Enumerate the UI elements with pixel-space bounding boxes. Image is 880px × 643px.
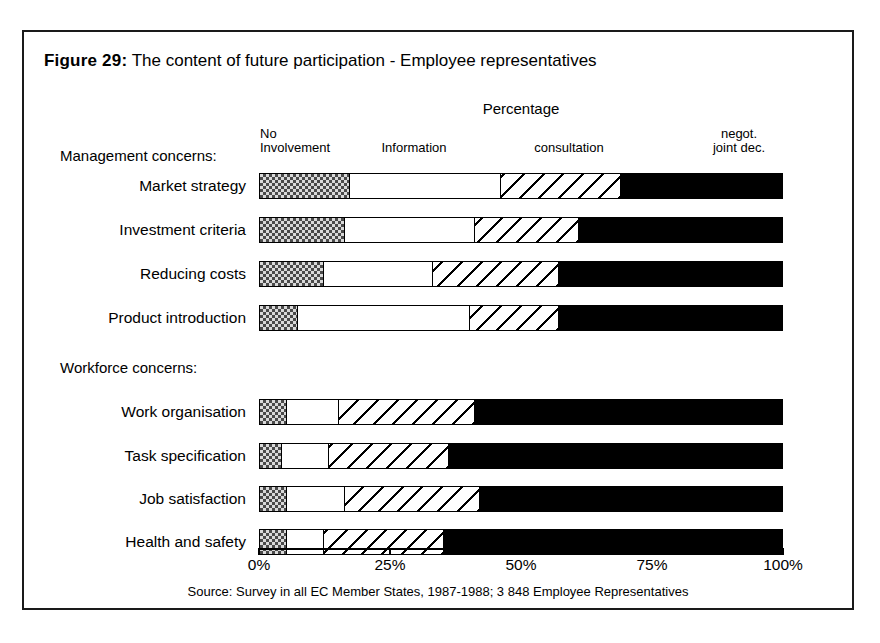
bar-row: Task specification [24, 443, 852, 469]
bar-row: Health and safety [24, 529, 852, 555]
bar-row-label: Job satisfaction [24, 488, 246, 510]
bar-segment-consultation [323, 530, 443, 554]
stacked-bar [259, 173, 783, 199]
figure-frame: Figure 29: The content of future partici… [22, 30, 854, 610]
bar-segment-consultation [344, 487, 480, 511]
bar-row-label: Market strategy [24, 175, 246, 197]
bar-row-label: Investment criteria [24, 219, 246, 241]
bar-segment-no-involvement [260, 444, 281, 468]
axis-title-percentage: Percentage [259, 100, 783, 117]
bar-row: Market strategy [24, 173, 852, 199]
x-axis-tick [258, 548, 260, 555]
x-axis-tick-label: 75% [617, 556, 687, 574]
bar-segment-information [286, 487, 343, 511]
bar-segment-negot-joint-dec [448, 444, 782, 468]
bar-segment-information [297, 306, 469, 330]
bar-segment-negot-joint-dec [443, 530, 782, 554]
bar-row: Reducing costs [24, 261, 852, 287]
bar-segment-negot-joint-dec [558, 262, 782, 286]
group-heading-management: Management concerns: [60, 147, 217, 164]
x-axis-tick [389, 548, 391, 555]
bar-row-label: Task specification [24, 445, 246, 467]
bar-row-label: Reducing costs [24, 263, 246, 285]
legend-no-involvement-line1: No [260, 127, 330, 141]
bar-segment-information [286, 530, 323, 554]
bar-row-label: Work organisation [24, 401, 246, 423]
bar-segment-no-involvement [260, 306, 297, 330]
x-axis-tick-label: 50% [486, 556, 556, 574]
stacked-bar [259, 217, 783, 243]
figure-title-text: The content of future participation - Em… [132, 51, 597, 70]
group-heading-workforce: Workforce concerns: [60, 359, 197, 376]
x-axis-tick-label: 25% [355, 556, 425, 574]
bar-segment-negot-joint-dec [474, 400, 782, 424]
bar-segment-no-involvement [260, 174, 349, 198]
x-axis-tick [520, 548, 522, 555]
figure-number: Figure 29: [44, 51, 127, 70]
bar-segment-information [344, 218, 475, 242]
legend-consultation: consultation [494, 141, 644, 155]
x-axis-tick-label: 0% [224, 556, 294, 574]
bar-segment-information [349, 174, 500, 198]
bar-segment-no-involvement [260, 262, 323, 286]
bar-row: Product introduction [24, 305, 852, 331]
bar-segment-negot-joint-dec [578, 218, 782, 242]
legend-negot-line1: negot. [684, 127, 794, 141]
bar-segment-information [323, 262, 433, 286]
legend-no-involvement-line2: Involvement [260, 141, 330, 155]
x-axis-tick [651, 548, 653, 555]
bar-segment-no-involvement [260, 218, 344, 242]
stacked-bar [259, 486, 783, 512]
legend-negot-joint-dec: negot. joint dec. [684, 127, 794, 155]
stacked-bar [259, 443, 783, 469]
bar-segment-information [281, 444, 328, 468]
figure-title: Figure 29: The content of future partici… [44, 50, 597, 71]
bar-segment-consultation [432, 262, 557, 286]
bar-segment-no-involvement [260, 487, 286, 511]
bar-segment-consultation [469, 306, 558, 330]
legend-negot-line2: joint dec. [684, 141, 794, 155]
bar-segment-negot-joint-dec [620, 174, 782, 198]
x-axis-tick-label: 100% [748, 556, 818, 574]
bar-segment-negot-joint-dec [479, 487, 782, 511]
stacked-bar [259, 261, 783, 287]
bar-segment-consultation [474, 218, 578, 242]
bar-row: Investment criteria [24, 217, 852, 243]
bar-row: Work organisation [24, 399, 852, 425]
bar-segment-consultation [328, 444, 448, 468]
bar-segment-information [286, 400, 338, 424]
bar-segment-consultation [338, 400, 474, 424]
bar-segment-no-involvement [260, 530, 286, 554]
x-axis-tick [782, 548, 784, 555]
source-note: Source: Survey in all EC Member States, … [24, 584, 852, 599]
bar-row-label: Product introduction [24, 307, 246, 329]
legend-no-involvement: No Involvement [260, 127, 330, 155]
bar-segment-negot-joint-dec [558, 306, 782, 330]
legend-information: Information [324, 141, 504, 155]
bar-segment-consultation [500, 174, 620, 198]
bar-row: Job satisfaction [24, 486, 852, 512]
bar-row-label: Health and safety [24, 531, 246, 553]
bar-segment-no-involvement [260, 400, 286, 424]
stacked-bar [259, 399, 783, 425]
stacked-bar [259, 305, 783, 331]
